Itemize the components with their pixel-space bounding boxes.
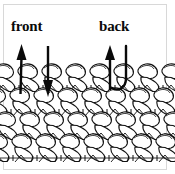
up-arrow-icon-back bbox=[105, 45, 115, 90]
down-arrow-icon-front bbox=[43, 46, 53, 97]
up-arrow-icon-front bbox=[17, 44, 27, 94]
arrow-annotation-layer bbox=[0, 0, 175, 174]
stitch-diagram-screenshot: front back bbox=[0, 0, 175, 174]
u-turn-arrow-icon-back bbox=[112, 46, 126, 90]
